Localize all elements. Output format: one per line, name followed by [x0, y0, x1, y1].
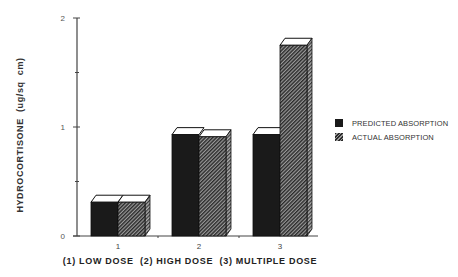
- legend-item-predicted: PREDICTED ABSORPTION: [335, 116, 448, 130]
- x-tick-label: 2: [197, 242, 202, 251]
- x-tick-label: 3: [278, 242, 283, 251]
- x-axis-caption: (1) LOW DOSE (2) HIGH DOSE (3) MULTIPLE …: [63, 256, 318, 266]
- y-axis-label: HYDROCORTISONE (ug/sq cm): [15, 57, 25, 212]
- legend-label: PREDICTED ABSORPTION: [352, 119, 448, 128]
- bar-actual-2: [199, 130, 231, 236]
- actual-swatch-icon: [335, 133, 343, 141]
- bar-actual-1: [118, 195, 150, 236]
- x-tick-label: 1: [116, 242, 121, 251]
- y-tick-label: 1: [61, 123, 66, 132]
- legend-label: ACTUAL ABSORPTION: [352, 133, 434, 142]
- bar-actual-3: [280, 38, 312, 236]
- y-tick-label: 2: [61, 14, 66, 23]
- legend-item-actual: ACTUAL ABSORPTION: [335, 130, 448, 144]
- legend: PREDICTED ABSORPTION ACTUAL ABSORPTION: [335, 116, 448, 144]
- bars: [91, 38, 312, 236]
- y-tick-label: 0: [61, 232, 66, 241]
- predicted-swatch-icon: [335, 119, 343, 127]
